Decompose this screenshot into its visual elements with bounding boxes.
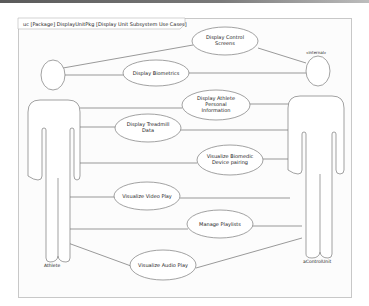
actor-athlete-label: Athlete — [44, 263, 60, 268]
svg-text:Data: Data — [142, 127, 154, 133]
actor-athlete[interactable]: Athlete — [28, 60, 80, 268]
use-case-visualize-video-play[interactable]: Visualize Video Play — [114, 182, 180, 210]
svg-text:Display Biometrics: Display Biometrics — [133, 70, 180, 77]
svg-text:Information: Information — [202, 107, 231, 113]
actor-stereotype: «internal» — [306, 50, 327, 55]
actor-acontrolunit[interactable]: «internal» aControlUnit — [288, 50, 344, 264]
frame-title: uc [Package] DisplayUnitPkg [Display Uni… — [23, 21, 187, 28]
use-case-display-treadmill-data[interactable]: Display Treadmill Data — [115, 114, 181, 142]
svg-text:Visualize Video Play: Visualize Video Play — [122, 193, 172, 200]
use-case-manage-playlists[interactable]: Manage Playlists — [187, 210, 253, 238]
use-case-display-control-screens[interactable]: Display Control Screens — [192, 27, 258, 55]
actor-body — [28, 100, 80, 262]
actor-head — [41, 60, 65, 90]
svg-text:Visualize Audio Play: Visualize Audio Play — [138, 262, 188, 269]
actor-acontrolunit-label: aControlUnit — [303, 259, 331, 264]
use-case-diagram: uc [Package] DisplayUnitPkg [Display Uni… — [0, 0, 369, 306]
actor-head — [306, 56, 330, 86]
use-case-display-biometrics[interactable]: Display Biometrics — [123, 60, 189, 86]
svg-text:Device pairing: Device pairing — [212, 159, 248, 166]
svg-text:Screens: Screens — [215, 40, 235, 46]
svg-text:Manage Playlists: Manage Playlists — [199, 221, 241, 228]
use-case-visualize-audio-play[interactable]: Visualize Audio Play — [130, 250, 196, 280]
actor-body — [288, 96, 344, 258]
use-case-visualize-biomedic-pairing[interactable]: Visualize Biomedic Device pairing — [197, 145, 263, 175]
use-case-display-athlete-personal-info[interactable]: Display Athlete Personal Information — [182, 90, 250, 120]
